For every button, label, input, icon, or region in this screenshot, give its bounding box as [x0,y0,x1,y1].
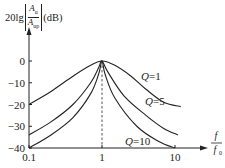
y-tick-label: 0 [20,55,26,67]
x-axis-label-numerator: f [215,130,219,141]
x-tick-label: 10 [170,151,182,163]
x-axis-arrow-icon [200,146,208,151]
x-tick-label: 0.1 [22,151,36,163]
x-tick-label: 1 [99,151,105,163]
series-label: Q=5 [145,95,165,107]
y-axis-arrow-icon [27,27,32,35]
x-axis-label-denominator: f [214,144,218,155]
x-axis-label-subscript: 0 [219,150,222,156]
y-tick-label: −10 [8,77,26,89]
y-tick-label: −20 [8,99,26,111]
y-tick-label: −30 [8,120,26,132]
series-label: Q=1 [141,70,161,82]
frequency-response-chart: 0−10−20−30−400.1110Q=1Q=5Q=10ff0 [0,0,225,168]
series-label: Q=10 [125,135,151,147]
